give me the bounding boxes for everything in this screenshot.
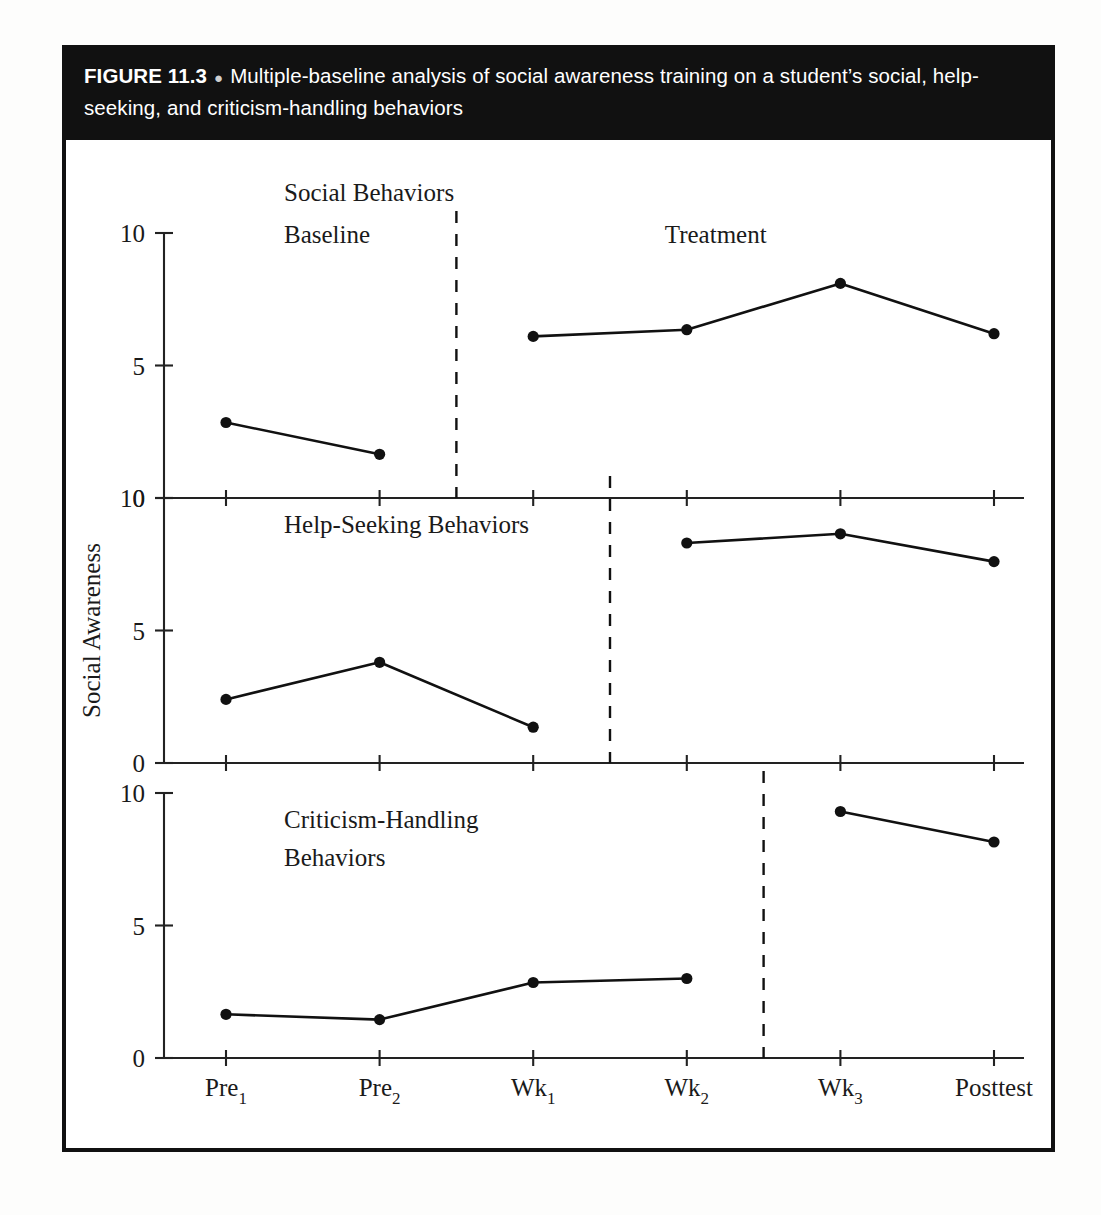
x-tick-label-Wk3: Wk3 [818, 1074, 863, 1108]
y-tick-label-criticism-handling-behaviors-0: 0 [133, 1045, 146, 1072]
phase-label-treatment: Treatment [665, 221, 767, 248]
svg-text:Pre2: Pre2 [359, 1074, 401, 1108]
figure-caption-bar: FIGURE 11.3●Multiple-baseline analysis o… [62, 45, 1055, 140]
y-tick-label-help-seeking-behaviors-5: 5 [133, 618, 146, 645]
x-tick-label-Pre1: Pre1 [205, 1074, 247, 1108]
phase-label-baseline: Baseline [284, 221, 370, 248]
panel-title-help-seeking-behaviors: Help-Seeking Behaviors [284, 511, 529, 538]
svg-text:Posttest: Posttest [955, 1074, 1033, 1101]
chart-svg: 0510Social BehaviorsBaselineTreatment051… [66, 140, 1051, 1144]
series-line-criticism-handling-behaviors-treatment [840, 812, 994, 843]
figure-frame: 0510Social BehaviorsBaselineTreatment051… [62, 140, 1055, 1152]
panel-title-social-behaviors: Social Behaviors [284, 179, 454, 206]
y-tick-label-help-seeking-behaviors-0: 0 [133, 750, 146, 777]
data-point-help-seeking-behaviors-Pre2 [374, 657, 385, 668]
data-point-criticism-handling-behaviors-Posttest [988, 836, 999, 847]
data-point-social-behaviors-Wk3 [835, 278, 846, 289]
caption-bullet-icon: ● [207, 69, 230, 86]
svg-text:Wk2: Wk2 [664, 1074, 709, 1108]
data-point-criticism-handling-behaviors-Pre1 [220, 1009, 231, 1020]
y-axis-label: Social Awareness [78, 543, 105, 718]
data-point-criticism-handling-behaviors-Wk1 [528, 977, 539, 988]
data-point-social-behaviors-Wk1 [528, 331, 539, 342]
series-line-criticism-handling-behaviors-baseline [226, 979, 687, 1020]
data-point-criticism-handling-behaviors-Pre2 [374, 1014, 385, 1025]
svg-text:Wk3: Wk3 [818, 1074, 863, 1108]
x-tick-label-Posttest: Posttest [955, 1074, 1033, 1101]
data-point-help-seeking-behaviors-Posttest [988, 556, 999, 567]
panel-title-criticism-handling-behaviors: Criticism-Handling [284, 806, 479, 833]
series-line-social-behaviors-treatment [533, 283, 994, 336]
y-tick-label-social-behaviors-5: 5 [133, 353, 146, 380]
svg-text:Wk1: Wk1 [511, 1074, 556, 1108]
data-point-criticism-handling-behaviors-Wk2 [681, 973, 692, 984]
series-line-social-behaviors-baseline [226, 423, 380, 455]
panel-title-line2-criticism-handling-behaviors: Behaviors [284, 844, 385, 871]
y-tick-label-criticism-handling-behaviors-5: 5 [133, 913, 146, 940]
y-tick-label-help-seeking-behaviors-10: 10 [120, 485, 145, 512]
multiple-baseline-chart: 0510Social BehaviorsBaselineTreatment051… [66, 140, 1051, 1148]
data-point-help-seeking-behaviors-Pre1 [220, 694, 231, 705]
data-point-social-behaviors-Pre1 [220, 417, 231, 428]
svg-text:Pre1: Pre1 [205, 1074, 247, 1108]
data-point-criticism-handling-behaviors-Wk3 [835, 806, 846, 817]
figure-page: the study and to explore the pattern of … [0, 0, 1101, 1215]
figure-caption-text: FIGURE 11.3●Multiple-baseline analysis o… [84, 61, 1033, 123]
y-tick-label-social-behaviors-10: 10 [120, 220, 145, 247]
data-point-help-seeking-behaviors-Wk1 [528, 722, 539, 733]
data-point-help-seeking-behaviors-Wk3 [835, 528, 846, 539]
data-point-help-seeking-behaviors-Wk2 [681, 537, 692, 548]
x-tick-label-Wk1: Wk1 [511, 1074, 556, 1108]
figure-number: FIGURE 11.3 [84, 64, 207, 87]
data-point-social-behaviors-Pre2 [374, 449, 385, 460]
x-tick-label-Pre2: Pre2 [359, 1074, 401, 1108]
data-point-social-behaviors-Posttest [988, 328, 999, 339]
y-tick-label-criticism-handling-behaviors-10: 10 [120, 780, 145, 807]
data-point-social-behaviors-Wk2 [681, 324, 692, 335]
x-tick-label-Wk2: Wk2 [664, 1074, 709, 1108]
series-line-help-seeking-behaviors-baseline [226, 662, 533, 727]
